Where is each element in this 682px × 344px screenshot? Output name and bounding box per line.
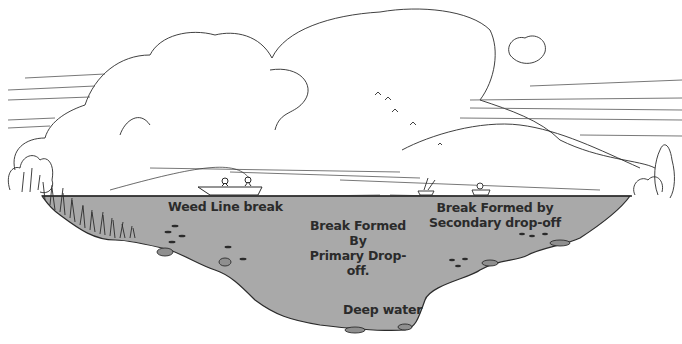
secondary-line-2: Secondary drop-off	[425, 215, 565, 230]
right-shore-tree	[634, 145, 675, 198]
clouds	[14, 9, 655, 170]
scene-illustration	[0, 0, 682, 344]
primary-line-2: By	[300, 233, 416, 248]
label-weed-line-break: Weed Line break	[168, 199, 283, 214]
lake-diagram: Weed Line break Break Formed By Primary …	[0, 0, 682, 344]
fishing-boat	[110, 167, 262, 195]
small-boats	[418, 178, 490, 195]
label-secondary-dropoff: Break Formed by Secondary drop-off	[425, 200, 565, 230]
primary-line-3: Primary Drop-	[300, 248, 416, 263]
secondary-line-1: Break Formed by	[425, 200, 565, 215]
primary-line-1: Break Formed	[300, 218, 416, 233]
label-primary-dropoff: Break Formed By Primary Drop- off.	[300, 218, 416, 278]
primary-line-4: off.	[300, 263, 416, 278]
label-deep-water: Deep water	[343, 302, 422, 317]
